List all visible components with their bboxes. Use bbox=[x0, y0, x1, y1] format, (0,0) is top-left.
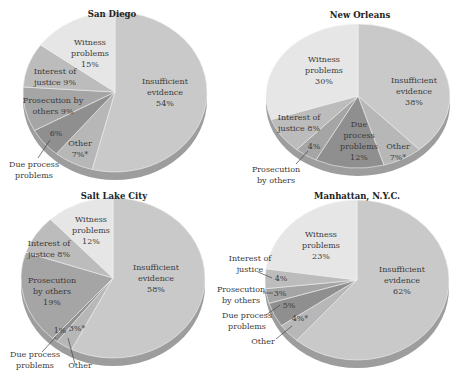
label-insufficient-evidence: Insufficient bbox=[379, 265, 426, 274]
label-other-pct: 3%* bbox=[69, 324, 86, 333]
callout-prosecution-by-others: Prosecution bbox=[217, 285, 265, 294]
svg-text:15%: 15% bbox=[81, 60, 99, 69]
label-interest-of-justice: Interest of bbox=[278, 113, 322, 122]
callout-due-process-problems: Due process bbox=[222, 311, 272, 320]
svg-text:19%: 19% bbox=[43, 298, 61, 307]
svg-text:problems: problems bbox=[16, 361, 54, 370]
chart-title: New Orleans bbox=[330, 10, 391, 20]
label-interest-of-justice: Interest of bbox=[34, 67, 78, 76]
callout-prosecution-by-others: Prosecution bbox=[252, 165, 300, 174]
label-due-process-pct: 1% bbox=[54, 326, 67, 335]
callout-other: Other bbox=[251, 337, 275, 346]
svg-text:justice 8%: justice 8% bbox=[27, 250, 70, 259]
svg-text:process: process bbox=[343, 131, 374, 140]
svg-text:problems: problems bbox=[305, 66, 343, 75]
label-due-process-pct: 5% bbox=[283, 301, 296, 310]
callout-due-process-problems: Due process bbox=[10, 350, 60, 359]
label-prosecution-by-others: Prosecution bbox=[28, 276, 76, 285]
label-witness-problems: Witness bbox=[308, 55, 340, 64]
label-prosecution-pct: 3% bbox=[274, 289, 287, 298]
svg-text:62%: 62% bbox=[393, 287, 411, 296]
label-witness-problems: Witness bbox=[74, 38, 106, 47]
label-other: Other bbox=[386, 142, 410, 151]
label-insufficient-evidence: Insufficient bbox=[133, 263, 180, 272]
label-insufficient-evidence: Insufficient bbox=[391, 76, 438, 85]
pie-manhattan bbox=[265, 200, 449, 368]
label-witness-problems: Witness bbox=[305, 230, 337, 239]
svg-text:7%*: 7%* bbox=[390, 153, 407, 162]
svg-text:by others: by others bbox=[33, 287, 71, 296]
svg-text:problems: problems bbox=[72, 226, 110, 235]
svg-text:by others: by others bbox=[257, 176, 295, 185]
svg-text:23%: 23% bbox=[312, 252, 330, 261]
label-witness-problems: Witness bbox=[75, 215, 107, 224]
callout-interest-of-justice: Interest of bbox=[229, 254, 273, 263]
svg-text:evidence: evidence bbox=[384, 276, 420, 285]
svg-text:12%: 12% bbox=[82, 237, 100, 246]
label-insufficient-evidence: Insufficient bbox=[142, 77, 189, 86]
chart-title: San Diego bbox=[88, 9, 137, 19]
callout-due-process-problems: Due process bbox=[9, 160, 59, 169]
pie-charts-figure: San Diego Insufficient evidence 54% Witn… bbox=[0, 0, 468, 379]
label-other-pct: 4%* bbox=[292, 314, 309, 323]
label-interest-pct: 4% bbox=[275, 274, 288, 283]
svg-text:54%: 54% bbox=[156, 99, 174, 108]
callout-other: Other bbox=[68, 361, 92, 370]
label-other: Other bbox=[68, 139, 92, 148]
svg-text:others 9%: others 9% bbox=[32, 107, 73, 116]
slice-witness-problems bbox=[266, 200, 357, 280]
svg-text:12%: 12% bbox=[350, 153, 368, 162]
label-prosecution-pct: 4% bbox=[308, 142, 321, 151]
label-due-process-pct: 6% bbox=[50, 129, 63, 138]
chart-title: Salt Lake City bbox=[81, 191, 148, 201]
svg-text:by others: by others bbox=[222, 296, 260, 305]
svg-text:evidence: evidence bbox=[396, 87, 432, 96]
svg-text:38%: 38% bbox=[405, 98, 423, 107]
svg-text:problems: problems bbox=[340, 142, 378, 151]
svg-text:58%: 58% bbox=[147, 285, 165, 294]
label-interest-of-justice: Interest of bbox=[28, 239, 72, 248]
svg-text:7%*: 7%* bbox=[72, 150, 89, 159]
svg-text:problems: problems bbox=[228, 322, 266, 331]
svg-text:30%: 30% bbox=[315, 77, 333, 86]
chart-title: Manhattan, N.Y.C. bbox=[314, 191, 400, 202]
svg-text:justice 9%: justice 9% bbox=[33, 78, 76, 87]
svg-text:evidence: evidence bbox=[138, 274, 174, 283]
svg-text:problems: problems bbox=[302, 241, 340, 250]
svg-text:evidence: evidence bbox=[147, 88, 183, 97]
label-prosecution-by-others: Prosecution by bbox=[23, 96, 84, 105]
svg-text:problems: problems bbox=[15, 171, 53, 180]
svg-text:justice 8%: justice 8% bbox=[277, 124, 320, 133]
label-due-process-problems: Due bbox=[351, 120, 368, 129]
svg-text:problems: problems bbox=[71, 49, 109, 58]
